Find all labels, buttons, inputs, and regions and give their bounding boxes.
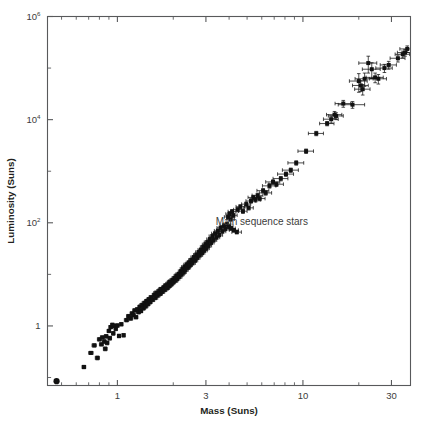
star-marker xyxy=(359,83,363,87)
data-point xyxy=(95,356,99,360)
star-marker xyxy=(271,180,275,184)
star-marker xyxy=(134,315,138,319)
star-marker xyxy=(108,336,112,340)
star-marker xyxy=(122,333,126,337)
y-tick-label: 106 xyxy=(26,10,41,22)
star-marker xyxy=(334,114,338,118)
x-tick-label: 1 xyxy=(115,390,120,401)
star-marker xyxy=(82,365,86,369)
data-point xyxy=(298,149,314,153)
star-marker xyxy=(284,172,288,176)
data-point xyxy=(320,122,334,126)
data-point xyxy=(89,351,93,355)
star-marker xyxy=(405,47,409,51)
data-point xyxy=(124,318,128,322)
data-point xyxy=(115,323,119,327)
data-point xyxy=(366,73,383,83)
star-marker xyxy=(247,206,251,210)
star-marker xyxy=(361,87,365,91)
star-marker xyxy=(366,61,370,65)
y-tick-label: 1 xyxy=(35,320,40,331)
star-marker xyxy=(217,233,221,237)
data-point xyxy=(104,334,108,338)
chart-annotation: Main sequence stars xyxy=(216,216,308,227)
star-marker xyxy=(279,177,283,181)
data-point xyxy=(111,331,115,335)
data-point xyxy=(117,334,121,338)
star-marker xyxy=(115,323,119,327)
star-marker xyxy=(100,335,104,339)
star-marker xyxy=(370,67,374,71)
star-marker xyxy=(387,63,391,67)
data-point xyxy=(288,161,304,165)
data-point xyxy=(134,315,138,319)
star-marker xyxy=(119,322,123,326)
data-point xyxy=(82,365,86,369)
plot-frame xyxy=(48,17,411,386)
x-axis-title: Mass (Suns) xyxy=(200,405,258,416)
data-point xyxy=(103,347,107,351)
star-marker xyxy=(382,66,386,70)
y-axis-title: Luminosity (Suns) xyxy=(5,158,16,243)
data-point xyxy=(53,378,59,384)
y-tick-label: 104 xyxy=(26,113,41,125)
data-point xyxy=(359,56,377,73)
data-point xyxy=(362,63,380,79)
star-marker xyxy=(95,356,99,360)
data-point xyxy=(355,85,370,96)
star-marker xyxy=(89,351,93,355)
data-point xyxy=(273,176,288,180)
star-marker xyxy=(314,131,318,135)
data-point xyxy=(335,100,351,107)
data-point xyxy=(108,336,112,340)
chart-canvas: 1310301102104106Mass (Suns)Luminosity (S… xyxy=(0,0,422,429)
star-marker xyxy=(274,182,278,186)
data-point xyxy=(92,343,96,347)
data-point xyxy=(308,131,323,135)
star-marker xyxy=(235,230,239,234)
star-marker xyxy=(264,191,268,195)
star-marker xyxy=(357,79,361,83)
star-marker xyxy=(241,209,245,213)
data-points-layer xyxy=(53,46,410,384)
data-point xyxy=(119,322,123,326)
data-point xyxy=(107,329,111,333)
star-marker xyxy=(325,122,329,126)
star-marker xyxy=(351,103,355,107)
x-tick-label: 30 xyxy=(386,390,397,401)
star-marker xyxy=(104,334,108,338)
star-marker xyxy=(329,117,333,121)
annotation-layer: Main sequence stars xyxy=(216,216,308,227)
star-marker xyxy=(117,334,121,338)
mass-luminosity-chart: 1310301102104106Mass (Suns)Luminosity (S… xyxy=(0,0,422,429)
star-marker xyxy=(107,329,111,333)
star-marker xyxy=(125,318,129,322)
data-point xyxy=(122,333,126,337)
star-marker xyxy=(111,331,115,335)
star-marker xyxy=(258,197,262,201)
star-marker xyxy=(376,77,380,81)
sun-marker xyxy=(53,378,59,384)
x-tick-label: 10 xyxy=(298,390,309,401)
axis-labels-layer: 1310301102104106Mass (Suns)Luminosity (S… xyxy=(5,10,397,416)
star-marker xyxy=(294,161,298,165)
star-marker xyxy=(105,341,109,345)
star-marker xyxy=(92,343,96,347)
x-tick-label: 3 xyxy=(203,390,208,401)
axes-layer xyxy=(48,17,411,386)
star-marker xyxy=(289,168,293,172)
star-marker xyxy=(304,149,308,153)
data-point xyxy=(100,335,104,339)
data-point xyxy=(105,341,109,345)
y-tick-label: 102 xyxy=(26,216,41,228)
star-marker xyxy=(396,56,400,60)
star-marker xyxy=(103,347,107,351)
